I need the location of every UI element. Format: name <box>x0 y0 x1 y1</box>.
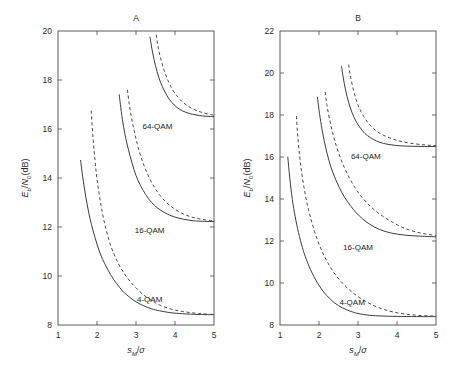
figure-container: A123458101214161820sM/σEb/N0(dB)64-QAM16… <box>0 0 450 375</box>
x-axis-label: sM/σ <box>127 345 145 357</box>
chart-panel-a: A123458101214161820sM/σEb/N0(dB)64-QAM16… <box>0 0 228 375</box>
chart-panel-b: B12345810121416182022sM/σEb/N0(dB)64-QAM… <box>222 0 450 375</box>
panel-title: A <box>133 13 139 23</box>
x-tick-label: 3 <box>356 330 361 340</box>
y-tick-label: 18 <box>265 110 275 120</box>
curve-annotation-16-qam: 16-QAM <box>343 243 373 252</box>
curve-16-qam-dashed <box>127 90 214 221</box>
x-tick-label: 3 <box>134 330 139 340</box>
y-tick-label: 12 <box>265 236 275 246</box>
curve-16-qam-dashed <box>325 92 436 236</box>
curve-4-qam-solid <box>81 160 214 314</box>
x-tick-label: 1 <box>278 330 283 340</box>
curves-group <box>288 65 436 317</box>
x-tick-label: 1 <box>56 330 61 340</box>
curve-annotation-64-qam: 64-QAM <box>143 122 173 131</box>
y-tick-label: 16 <box>265 152 275 162</box>
y-tick-label: 16 <box>43 124 53 134</box>
y-tick-label: 10 <box>43 271 53 281</box>
curve-annotation-64-qam: 64-QAM <box>351 152 381 161</box>
x-tick-label: 5 <box>434 330 439 340</box>
curve-4-qam-solid <box>288 157 436 317</box>
chart-svg-b: B12345810121416182022sM/σEb/N0(dB)64-QAM… <box>222 0 450 375</box>
y-tick-label: 10 <box>265 278 275 288</box>
x-tick-label: 2 <box>317 330 322 340</box>
x-tick-label: 4 <box>173 330 178 340</box>
curve-64-qam-dashed <box>349 65 436 146</box>
y-axis-label: Eb/N0(dB) <box>242 159 254 198</box>
curves-group <box>81 35 214 315</box>
y-tick-label: 18 <box>43 75 53 85</box>
curve-64-qam-dashed <box>156 35 214 116</box>
curve-64-qam-solid <box>342 67 436 147</box>
x-tick-label: 5 <box>212 330 217 340</box>
curve-annotation-4-qam: 4-QAM <box>339 298 365 307</box>
y-tick-label: 8 <box>47 320 52 330</box>
x-tick-label: 2 <box>95 330 100 340</box>
curve-16-qam-solid <box>317 97 436 237</box>
y-tick-label: 12 <box>43 222 53 232</box>
y-tick-label: 22 <box>265 26 275 36</box>
axis-box <box>58 31 214 325</box>
y-tick-label: 20 <box>43 26 53 36</box>
curve-64-qam-solid <box>150 37 214 117</box>
x-axis-label: sM/σ <box>349 345 367 357</box>
panel-title: B <box>355 13 361 23</box>
y-tick-label: 8 <box>269 320 274 330</box>
y-tick-label: 14 <box>43 173 53 183</box>
y-tick-label: 14 <box>265 194 275 204</box>
curve-annotation-4-qam: 4-QAM <box>137 295 163 304</box>
axis-box <box>280 31 436 325</box>
chart-svg-a: A123458101214161820sM/σEb/N0(dB)64-QAM16… <box>0 0 228 375</box>
curve-annotation-16-qam: 16-QAM <box>135 226 165 235</box>
x-tick-label: 4 <box>395 330 400 340</box>
curve-16-qam-solid <box>119 95 214 222</box>
y-tick-label: 20 <box>265 68 275 78</box>
y-axis-label: Eb/N0(dB) <box>20 159 32 198</box>
curve-4-qam-dashed <box>91 111 214 315</box>
